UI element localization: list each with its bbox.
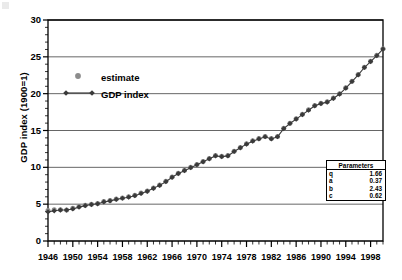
legend-label-gdp-index: GDP index xyxy=(101,89,149,100)
parameter-name: c xyxy=(329,192,333,199)
legend-gdp-marker xyxy=(89,90,95,96)
parameter-name: q xyxy=(329,170,333,177)
parameters-table-header: Parameters xyxy=(327,161,385,170)
y-tick-label: 25 xyxy=(19,51,41,62)
parameters-table-row: q1.66 xyxy=(327,170,385,177)
chart-figure: GDP index (1900=1) 051015202530 19461950… xyxy=(0,0,402,280)
parameters-table-row: b2.43 xyxy=(327,185,385,192)
parameter-value: 2.43 xyxy=(370,185,382,192)
y-tick-label: 15 xyxy=(19,125,41,136)
parameter-value: 1.66 xyxy=(370,170,382,177)
parameter-value: 0.37 xyxy=(370,177,382,184)
parameters-table: Parameters q1.66a0.37b2.43c0.62 xyxy=(326,160,386,201)
parameters-table-row: c0.62 xyxy=(327,192,385,199)
parameter-name: a xyxy=(329,177,333,184)
y-tick-label: 0 xyxy=(19,235,41,246)
legend-label-estimate: estimate xyxy=(101,72,140,83)
y-tick-label: 30 xyxy=(19,14,41,25)
parameter-name: b xyxy=(329,185,333,192)
y-tick-label: 10 xyxy=(19,161,41,172)
legend-gdp-marker xyxy=(63,90,69,96)
parameters-table-row: a0.37 xyxy=(327,177,385,184)
chart-plot-svg xyxy=(0,0,402,280)
parameter-value: 0.62 xyxy=(370,192,382,199)
y-tick-label: 20 xyxy=(19,88,41,99)
legend-estimate-marker xyxy=(75,73,81,79)
gdp-index-point xyxy=(64,207,69,212)
parameters-table-body: q1.66a0.37b2.43c0.62 xyxy=(327,170,385,200)
y-tick-label: 5 xyxy=(19,198,41,209)
x-tick-label: 1998 xyxy=(354,252,388,262)
